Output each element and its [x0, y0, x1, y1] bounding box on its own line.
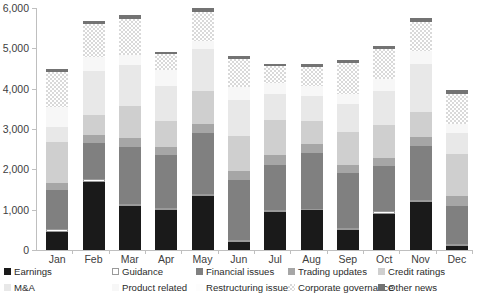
x-axis-tick-label: Oct [364, 253, 404, 265]
bar-segment [155, 86, 177, 121]
legend-item-earnings[interactable]: Earnings [4, 266, 52, 277]
bar-segment [410, 112, 432, 137]
legend-label: Product related [122, 282, 187, 293]
y-axis-tick-label: 2,000 [3, 163, 29, 175]
bar-segment [264, 94, 286, 120]
bar-oct[interactable] [373, 46, 395, 250]
bar-segment [83, 135, 105, 143]
bar-segment [373, 79, 395, 92]
bar-feb[interactable] [83, 21, 105, 250]
bar-segment [119, 138, 141, 146]
bar-segment [192, 49, 214, 91]
legend-swatch-icon [196, 268, 203, 275]
bar-group [36, 8, 472, 250]
bar-segment [410, 137, 432, 146]
bar-segment [83, 24, 105, 57]
legend-item-product-related[interactable]: Product related [112, 282, 187, 293]
bar-segment [46, 127, 68, 142]
bar-segment [264, 155, 286, 165]
bar-jul[interactable] [264, 64, 286, 250]
x-axis-tick [472, 250, 473, 254]
bar-segment [301, 153, 323, 209]
legend-swatch-icon [378, 284, 385, 291]
legend-swatch-icon [4, 268, 11, 275]
legend-item-credit-ratings[interactable]: Credit ratings [378, 266, 445, 277]
bar-segment [410, 64, 432, 112]
bar-segment [301, 96, 323, 121]
bar-segment [228, 87, 250, 100]
legend-swatch-icon [288, 284, 295, 291]
bar-segment [83, 115, 105, 134]
bar-segment [446, 133, 468, 154]
bar-aug[interactable] [301, 64, 323, 250]
bar-segment [264, 165, 286, 209]
bar-segment [119, 147, 141, 205]
bar-segment [301, 144, 323, 153]
bar-jan[interactable] [46, 69, 68, 250]
bar-segment [119, 106, 141, 139]
bar-segment [373, 158, 395, 166]
legend-item-restructuring-issues[interactable]: Restructuring issues [196, 282, 293, 293]
legend-label: Earnings [14, 266, 52, 277]
bar-segment [337, 94, 359, 104]
bar-segment [373, 125, 395, 158]
legend-label: Guidance [122, 266, 163, 277]
bar-segment [337, 165, 359, 173]
bar-segment [83, 71, 105, 115]
legend-swatch-icon [112, 268, 119, 275]
legend-item-financial-issues[interactable]: Financial issues [196, 266, 274, 277]
bar-segment [46, 72, 68, 107]
bar-segment [373, 214, 395, 250]
legend-item-other-news[interactable]: Other news [378, 282, 437, 293]
bar-mar[interactable] [119, 15, 141, 250]
bar-segment [119, 55, 141, 65]
bar-segment [446, 124, 468, 133]
legend-swatch-icon [4, 284, 11, 291]
bar-segment [155, 155, 177, 208]
y-axis-tick-label: 5,000 [3, 42, 29, 54]
bar-segment [410, 22, 432, 51]
bar-jun[interactable] [228, 56, 250, 250]
bar-segment [228, 59, 250, 86]
bar-segment [337, 104, 359, 132]
x-axis-tick-label: Feb [74, 253, 114, 265]
bar-may[interactable] [192, 8, 214, 250]
bar-segment [446, 196, 468, 206]
bar-segment [155, 210, 177, 250]
bar-dec[interactable] [446, 90, 468, 250]
bar-segment [155, 121, 177, 148]
bar-segment [446, 94, 468, 124]
x-axis-tick-label: Apr [146, 253, 186, 265]
bar-segment [410, 146, 432, 200]
bar-segment [373, 49, 395, 79]
bar-segment [301, 121, 323, 144]
y-axis-tick-label: 0 [23, 244, 29, 256]
bar-segment [228, 180, 250, 240]
x-axis-tick-label: Nov [401, 253, 441, 265]
bar-segment [301, 86, 323, 96]
legend-item-trading-updates[interactable]: Trading updates [288, 266, 367, 277]
bar-nov[interactable] [410, 18, 432, 250]
bar-sep[interactable] [337, 60, 359, 250]
legend-swatch-icon [196, 284, 203, 291]
x-axis-tick-label: Mar [110, 253, 150, 265]
plot-area: 01,0002,0003,0004,0005,0006,000 JanFebMa… [36, 8, 472, 250]
bar-segment [264, 120, 286, 155]
x-axis-tick-label: Jul [255, 253, 295, 265]
bar-segment [446, 154, 468, 196]
bar-segment [192, 124, 214, 133]
bar-segment [192, 41, 214, 49]
bar-segment [228, 100, 250, 136]
bar-apr[interactable] [155, 52, 177, 250]
x-axis-tick-label: Dec [437, 253, 477, 265]
legend-item-guidance[interactable]: Guidance [112, 266, 163, 277]
bar-segment [46, 183, 68, 191]
bar-segment [119, 65, 141, 105]
bar-segment [228, 171, 250, 180]
x-axis-tick-label: May [183, 253, 223, 265]
legend-item-m-a[interactable]: M&A [4, 282, 35, 293]
bar-segment [337, 63, 359, 94]
bar-segment [446, 246, 468, 250]
legend-label: Financial issues [206, 266, 274, 277]
bar-segment [192, 133, 214, 194]
